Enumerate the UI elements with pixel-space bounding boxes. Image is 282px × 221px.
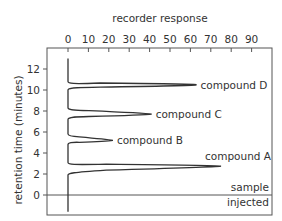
peak-label: compound C <box>156 108 222 120</box>
x-tick-label: 70 <box>204 33 217 45</box>
x-tick-label: 0 <box>65 33 72 45</box>
sample-label: sample <box>231 181 269 193</box>
y-axis-ticks: 024681012 <box>27 63 47 201</box>
x-tick-label: 90 <box>245 33 258 45</box>
x-tick-label: 20 <box>102 33 115 45</box>
y-tick-label: 4 <box>33 147 40 159</box>
peak-label: compound A <box>205 150 272 162</box>
x-tick-label: 40 <box>143 33 156 45</box>
y-tick-label: 6 <box>33 126 40 138</box>
x-tick-label: 50 <box>163 33 176 45</box>
x-tick-label: 10 <box>82 33 95 45</box>
x-tick-label: 80 <box>225 33 238 45</box>
peak-label: compound B <box>117 134 183 146</box>
y-tick-label: 0 <box>33 189 40 201</box>
peak-label: compound D <box>201 79 268 91</box>
x-tick-label: 30 <box>123 33 136 45</box>
y-tick-label: 2 <box>33 168 40 180</box>
chromatogram-chart: recorder response retention time (minute… <box>0 0 282 221</box>
injected-label: injected <box>227 196 269 208</box>
peak-labels: compound Acompound Bcompound Ccompound D <box>117 79 272 162</box>
y-tick-label: 10 <box>27 84 40 96</box>
x-axis-label: recorder response <box>112 12 207 24</box>
y-tick-label: 12 <box>27 63 40 75</box>
x-tick-label: 60 <box>184 33 197 45</box>
y-axis-label: retention time (minutes) <box>12 76 24 205</box>
x-axis-ticks: 0102030405060708090 <box>65 33 259 52</box>
y-tick-label: 8 <box>33 105 40 117</box>
